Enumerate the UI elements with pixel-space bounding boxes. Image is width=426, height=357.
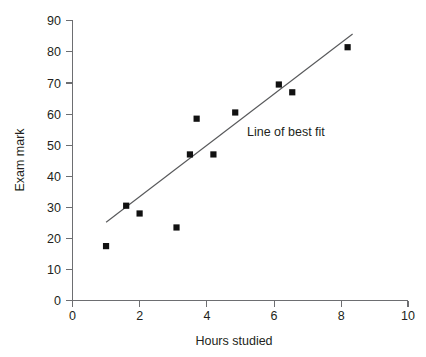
- x-tick-label-8: 8: [338, 309, 345, 323]
- data-point: [173, 224, 179, 230]
- line-of-best-fit-label: Line of best fit: [247, 125, 325, 139]
- y-tick-label-30: 30: [47, 201, 61, 215]
- x-tick-label-10: 10: [401, 309, 415, 323]
- data-point: [137, 210, 143, 216]
- data-point: [232, 109, 238, 115]
- data-point: [187, 151, 193, 157]
- x-tick-label-0: 0: [69, 309, 76, 323]
- data-point: [123, 203, 129, 209]
- data-points-group: [103, 44, 351, 249]
- y-tick-label-70: 70: [47, 77, 61, 91]
- x-axis-ticks: [73, 301, 409, 308]
- x-tick-label-4: 4: [203, 309, 210, 323]
- y-axis-title: Exam mark: [13, 128, 27, 192]
- data-point: [103, 243, 109, 249]
- y-tick-label-20: 20: [47, 232, 61, 246]
- x-tick-label-2: 2: [136, 309, 143, 323]
- data-point: [194, 116, 200, 122]
- data-point: [345, 44, 351, 50]
- x-tick-label-6: 6: [271, 309, 278, 323]
- y-axis-ticks: [66, 21, 73, 301]
- data-point: [289, 89, 295, 95]
- x-axis-title: Hours studied: [195, 334, 272, 348]
- y-tick-label-60: 60: [47, 108, 61, 122]
- scatter-chart: 0 10 20 30 40 50 60 70 80 90 0 2 4 6 8: [0, 0, 426, 357]
- y-tick-label-0: 0: [54, 294, 61, 308]
- y-tick-label-90: 90: [47, 14, 61, 28]
- chart-svg: 0 10 20 30 40 50 60 70 80 90 0 2 4 6 8: [0, 0, 426, 357]
- y-axis-tick-labels: 0 10 20 30 40 50 60 70 80 90: [47, 14, 61, 308]
- y-tick-label-50: 50: [47, 139, 61, 153]
- y-tick-label-80: 80: [47, 45, 61, 59]
- x-axis-tick-labels: 0 2 4 6 8 10: [69, 309, 415, 323]
- data-point: [210, 151, 216, 157]
- y-tick-label-10: 10: [47, 263, 61, 277]
- y-tick-label-40: 40: [47, 170, 61, 184]
- data-point: [276, 81, 282, 87]
